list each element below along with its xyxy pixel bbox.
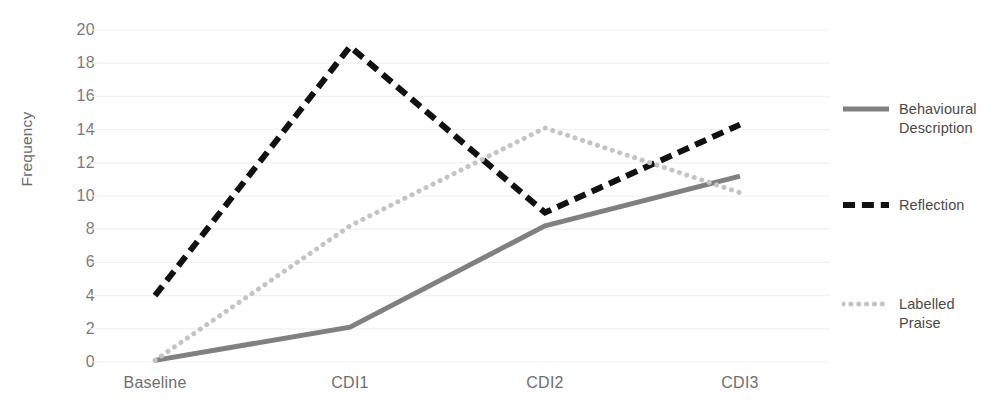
- legend-label: Labelled Praise: [899, 295, 991, 333]
- x-axis-tick-label: Baseline: [124, 374, 187, 392]
- gridlines: [88, 30, 830, 362]
- legend-item[interactable]: Reflection: [842, 196, 964, 215]
- line-chart: Frequency 20181614121086420 BaselineCDI1…: [0, 0, 992, 402]
- x-axis-tick-label: CDI3: [721, 374, 758, 392]
- legend-swatch-solid-icon: [842, 101, 890, 117]
- chart-legend: Behavioural DescriptionReflectionLabelle…: [842, 0, 992, 402]
- series-line-1: [155, 47, 740, 296]
- x-axis-tick-label: CDI1: [331, 374, 368, 392]
- legend-item[interactable]: Labelled Praise: [842, 295, 991, 333]
- legend-label: Behavioural Description: [899, 100, 991, 138]
- legend-swatch-dotted-icon: [842, 296, 890, 312]
- legend-label: Reflection: [899, 196, 964, 215]
- legend-swatch-dashed-icon: [842, 197, 890, 213]
- series-line-0: [155, 176, 740, 360]
- legend-item[interactable]: Behavioural Description: [842, 100, 991, 138]
- x-axis-tick-label: CDI2: [526, 374, 563, 392]
